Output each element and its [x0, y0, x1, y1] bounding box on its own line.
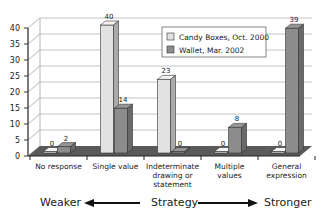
bar — [158, 79, 171, 153]
bar — [58, 147, 71, 153]
y-tick-label: 40 — [10, 24, 20, 33]
y-tick-label: 25 — [10, 72, 20, 81]
bar — [286, 28, 299, 153]
bar-value-label: 40 — [105, 13, 114, 21]
x-category-label: Multiple — [215, 162, 245, 171]
legend-entry: Candy Boxes, Oct. 2000 — [179, 33, 269, 42]
bar-value-label: 23 — [162, 67, 171, 75]
x-category-label: values — [217, 171, 241, 180]
x-category-label: Single value — [93, 162, 139, 171]
bar-value-label: 14 — [119, 96, 128, 104]
bar-value-label: 2 — [64, 135, 68, 143]
bar-value-label: 0 — [50, 140, 54, 148]
y-tick-label: 10 — [10, 120, 20, 129]
x-category-label: General — [272, 162, 302, 171]
y-tick-label: 35 — [10, 40, 20, 49]
y-tick-label: 30 — [10, 56, 20, 65]
bar — [101, 25, 114, 153]
bar-value-label: 8 — [235, 115, 239, 123]
y-tick-label: 15 — [10, 104, 20, 113]
y-tick-label: 0 — [15, 152, 20, 161]
y-tick-label: 20 — [10, 88, 20, 97]
bar-value-label: 39 — [290, 16, 299, 24]
bar-value-label: 0 — [221, 140, 225, 148]
x-category-label: No response — [35, 162, 82, 171]
stronger-label: Stronger — [264, 196, 312, 209]
bar — [115, 108, 128, 153]
y-tick-label: 5 — [15, 136, 20, 145]
bar-value-label: 0 — [278, 140, 282, 148]
weaker-label: Weaker — [40, 196, 81, 209]
left-arrow-icon — [84, 198, 140, 211]
bar-value-label: 0 — [178, 140, 182, 148]
x-category-label: drawing or — [152, 171, 193, 180]
x-category-label: Indeterminate — [146, 162, 200, 171]
x-category-label: expression — [266, 171, 307, 180]
x-category-label: statement — [153, 180, 192, 189]
bar — [229, 127, 242, 153]
chart-canvas: 051015202530354002No response4014Single … — [0, 0, 328, 217]
strategy-label: Strategy — [151, 196, 198, 209]
right-arrow-icon — [198, 198, 258, 211]
strategy-bar-chart: 051015202530354002No response4014Single … — [0, 0, 328, 217]
strategy-scale: Weaker Strategy Stronger — [0, 196, 328, 216]
legend-entry: Wallet, Mar. 2002 — [179, 46, 245, 55]
